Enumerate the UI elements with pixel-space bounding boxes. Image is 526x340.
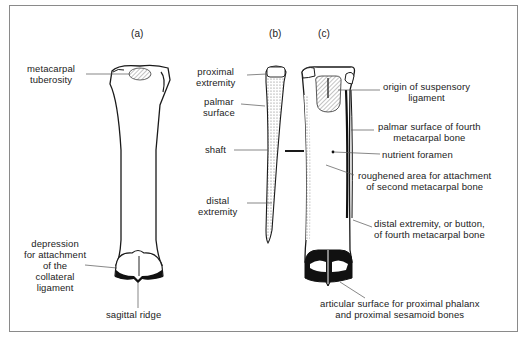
bone-b-splint-bone xyxy=(266,66,304,243)
label-origin-suspensory-ligament: origin of suspensory ligament xyxy=(383,81,470,103)
bone-c-palmar-view xyxy=(302,67,355,286)
label-palmar-surface: palmar surface xyxy=(203,96,235,118)
label-roughened-area: roughened area for attachment of second … xyxy=(358,170,491,192)
label-proximal-extremity: proximal extremity xyxy=(196,66,235,88)
panel-label-b: (b) xyxy=(269,28,282,39)
label-distal-extremity: distal extremity xyxy=(198,195,237,217)
label-metacarpal-tuberosity: metacarpal tuberosity xyxy=(27,63,75,85)
bone-a-dorsal-view xyxy=(110,65,170,283)
label-distal-extremity-button: distal extremity, or button, of fourth m… xyxy=(374,218,485,240)
panel-label-c: (c) xyxy=(318,28,330,39)
label-shaft: shaft xyxy=(205,144,226,155)
label-sagittal-ridge: sagittal ridge xyxy=(106,309,161,320)
label-depression-collateral-ligament: depression for attachment of the collate… xyxy=(24,238,86,293)
label-nutrient-foramen: nutrient foramen xyxy=(382,149,453,160)
label-palmar-surface-fourth-metacarpal: palmar surface of fourth metacarpal bone xyxy=(378,121,481,143)
panel-label-a: (a) xyxy=(131,28,144,39)
label-articular-surface: articular surface for proximal phalanx a… xyxy=(320,298,480,320)
